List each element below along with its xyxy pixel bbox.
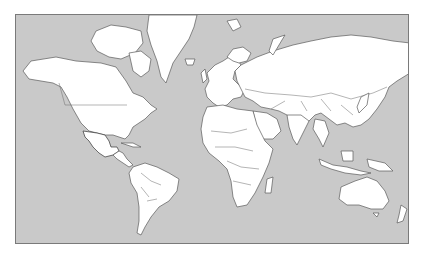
- borneo: [341, 151, 353, 161]
- iceland: [185, 59, 195, 65]
- map-canvas: [16, 15, 409, 244]
- world-map: [15, 14, 409, 244]
